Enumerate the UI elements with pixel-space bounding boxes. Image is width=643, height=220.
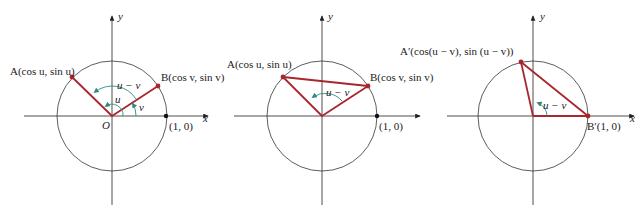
point-a-label: A(cos u, sin u) <box>227 58 292 71</box>
unit-point <box>375 114 379 118</box>
y-axis-label: y <box>117 10 123 22</box>
unit-point-label: (1, 0) <box>379 120 403 133</box>
point-b-prime <box>586 114 591 119</box>
y-axis-label: y <box>539 10 545 22</box>
x-axis-label: x <box>629 112 635 124</box>
segment-ab <box>283 77 368 86</box>
unit-circle-figure: x y A(cos u, sin u) B(cos v, sin v) O (1… <box>0 0 643 220</box>
segment-oa <box>283 77 322 116</box>
x-axis-label: x <box>202 112 208 124</box>
point-b-label: B(cos v, sin v) <box>161 71 225 84</box>
angle-diff-label: u − v <box>326 86 349 98</box>
point-a-label: A(cos u, sin u) <box>10 65 75 78</box>
angle-diff-label: u − v <box>117 79 140 91</box>
segment-oa <box>72 77 112 116</box>
y-axis-label: y <box>327 10 333 22</box>
panel-3: x y A′(cos(u − v), sin (u − v)) B′(1, 0)… <box>400 10 635 205</box>
point-a-prime-label: A′(cos(u − v), sin (u − v)) <box>400 45 514 58</box>
angle-v-arrow <box>133 104 136 116</box>
point-b <box>366 84 371 89</box>
origin-label: O <box>102 119 110 131</box>
point-a <box>281 75 286 80</box>
angle-v-label: v <box>139 101 144 113</box>
point-b-label: B(cos v, sin v) <box>370 71 434 84</box>
panel-1: x y A(cos u, sin u) B(cos v, sin v) O (1… <box>10 10 225 205</box>
point-b <box>156 84 161 89</box>
unit-point <box>164 114 168 118</box>
point-a-prime <box>519 60 524 65</box>
point-b-prime-label: B′(1, 0) <box>587 120 621 133</box>
panel-2: y A(cos u, sin u) B(cos v, sin v) (1, 0)… <box>227 10 434 205</box>
angle-u-label: u <box>115 93 121 105</box>
unit-point-label: (1, 0) <box>169 120 193 133</box>
angle-diff-label: u − v <box>543 99 566 111</box>
